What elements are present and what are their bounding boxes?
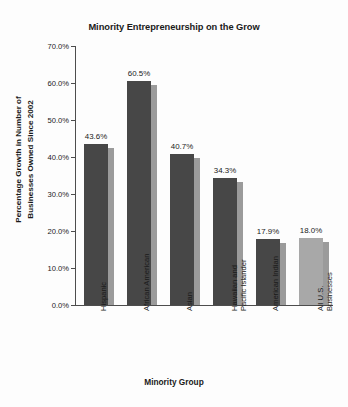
y-axis-title-line2: Businesses Owned Since 2002 — [24, 85, 36, 235]
bar-shadow — [280, 243, 286, 305]
y-axis-tick-mark — [71, 46, 75, 47]
bar-value-label: 60.5% — [128, 69, 150, 78]
y-axis-tick-mark — [71, 231, 75, 232]
category-label-line1: African American — [142, 254, 151, 311]
y-axis-tick-label: 0.0% — [52, 301, 69, 310]
y-axis-tick-label: 70.0% — [47, 42, 69, 51]
bar-value-label: 34.3% — [214, 166, 236, 175]
y-axis-tick-mark — [71, 157, 75, 158]
bar-group[interactable]: 43.6% — [84, 144, 114, 305]
y-axis-title: Percentage Growth in Number of Businesse… — [13, 85, 36, 235]
chart-container: Minority Entrepreneurship on the Grow Pe… — [0, 0, 348, 407]
x-axis-category-label: American Indian — [271, 256, 280, 311]
y-axis-tick-mark — [71, 305, 75, 306]
y-axis-tick-mark — [71, 120, 75, 121]
x-axis-category-label: Hawaiian andPacific Islander — [230, 260, 249, 312]
y-axis-tick-label: 10.0% — [47, 264, 69, 273]
category-label-line1: Asian — [185, 292, 194, 311]
category-label-line1: Hispanic — [99, 282, 108, 311]
category-label-line2: Pacific Islander — [239, 260, 248, 312]
bar-group[interactable]: 40.7% — [170, 154, 200, 305]
category-label-line1: All U.S. — [316, 286, 325, 311]
bar-shadow — [108, 148, 114, 305]
bar[interactable] — [84, 144, 108, 305]
chart-title: Minority Entrepreneurship on the Grow — [0, 22, 348, 32]
y-axis-tick-label: 40.0% — [47, 153, 69, 162]
bar-value-label: 18.0% — [300, 226, 322, 235]
bar-shadow — [151, 85, 157, 305]
x-axis-title: Minority Group — [0, 377, 348, 387]
bar-value-label: 40.7% — [171, 142, 193, 151]
y-axis-tick-mark — [71, 83, 75, 84]
category-label-line1: Hawaiian and — [230, 265, 239, 311]
x-axis-category-label: Hispanic — [99, 282, 108, 311]
y-axis-tick-label: 20.0% — [47, 227, 69, 236]
category-label-line1: American Indian — [271, 256, 280, 311]
y-axis-tick-label: 60.0% — [47, 79, 69, 88]
category-label-line2: Businesses — [325, 272, 334, 311]
x-axis-category-label: Asian — [185, 292, 194, 311]
y-axis-tick-mark — [71, 268, 75, 269]
y-axis-tick-label: 50.0% — [47, 116, 69, 125]
y-axis-line — [75, 46, 76, 305]
y-axis-tick-mark — [71, 194, 75, 195]
y-axis-tick-label: 30.0% — [47, 190, 69, 199]
bar-value-label: 43.6% — [85, 132, 107, 141]
y-axis-title-line1: Percentage Growth in Number of — [14, 96, 23, 222]
bar-shadow — [194, 158, 200, 305]
x-axis-category-label: All U.S.Businesses — [316, 272, 335, 311]
x-axis-line — [75, 305, 333, 306]
bar[interactable] — [170, 154, 194, 305]
plot-area: 70.0%60.0%50.0%40.0%30.0%20.0%10.0%0.0% … — [75, 46, 333, 305]
bar-value-label: 17.9% — [257, 227, 279, 236]
x-axis-category-label: African American — [142, 254, 151, 311]
